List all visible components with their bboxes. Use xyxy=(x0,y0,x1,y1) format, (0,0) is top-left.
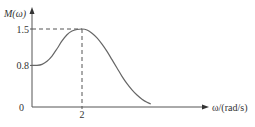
y-tick-label: 0.8 xyxy=(17,60,30,71)
x-axis-arrow xyxy=(202,105,209,110)
axes xyxy=(30,7,210,110)
tick-labels: 00.81.52 xyxy=(17,24,85,121)
y-tick-label: 1.5 xyxy=(17,24,30,35)
y-axis-arrow xyxy=(30,7,35,14)
labels: M(ω) ω/(rad/s) xyxy=(3,8,247,114)
y-axis-label: M(ω) xyxy=(3,8,27,20)
series-line xyxy=(32,29,151,104)
x-axis-label: ω/(rad/s) xyxy=(212,102,247,114)
x-tick-label: 2 xyxy=(80,109,85,120)
guides xyxy=(32,29,82,107)
series xyxy=(32,29,151,104)
chart: M(ω) ω/(rad/s) 00.81.52 xyxy=(0,0,255,127)
y-tick-label: 0 xyxy=(19,102,24,113)
